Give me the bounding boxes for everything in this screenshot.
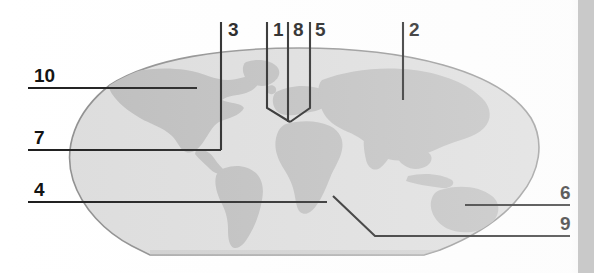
callout-label-4: 4 xyxy=(34,179,45,200)
callout-label-1: 1 xyxy=(273,19,284,40)
callout-label-7: 7 xyxy=(34,127,45,148)
callout-label-10: 10 xyxy=(34,65,55,86)
world-map-diagram: 10 7 4 3 1 8 5 2 6 9 xyxy=(0,0,594,273)
land-antarctic-fringe xyxy=(150,250,470,258)
callout-label-2: 2 xyxy=(409,19,420,40)
callout-label-8: 8 xyxy=(293,19,304,40)
callout-label-9: 9 xyxy=(560,213,571,234)
land-british-isles xyxy=(267,85,276,94)
right-edge-strip xyxy=(578,0,594,273)
callout-label-6: 6 xyxy=(560,182,571,203)
callout-label-5: 5 xyxy=(315,19,326,40)
callout-label-3: 3 xyxy=(228,19,239,40)
figure-root: 10 7 4 3 1 8 5 2 6 9 xyxy=(0,0,594,273)
